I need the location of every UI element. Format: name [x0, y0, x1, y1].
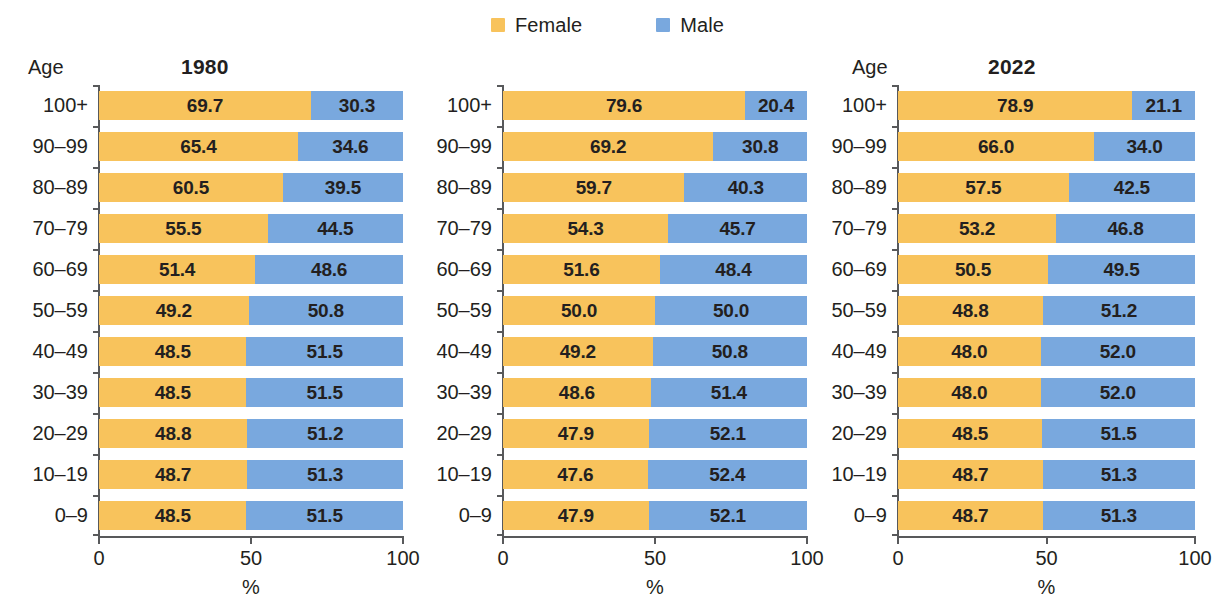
legend-entry-male[interactable]: Male [656, 15, 724, 35]
bar-segment-female[interactable]: 51.4 [99, 255, 255, 284]
legend-entry-female[interactable]: Female [491, 15, 582, 35]
bar-segment-male[interactable]: 30.3 [311, 91, 403, 120]
bar-segment-male[interactable]: 51.4 [651, 378, 807, 407]
bar-row[interactable]: 80–8957.542.5 [898, 167, 1195, 208]
bar-row[interactable]: 100+78.921.1 [898, 85, 1195, 126]
bar-segment-male[interactable]: 45.7 [668, 214, 807, 243]
bar-row[interactable]: 0–948.751.3 [898, 495, 1195, 536]
bar-row[interactable]: 40–4949.250.8 [503, 331, 807, 372]
bar-segment-female[interactable]: 48.7 [898, 460, 1043, 489]
bar-segment-male[interactable]: 50.8 [653, 337, 807, 366]
bar-segment-female[interactable]: 48.5 [99, 337, 246, 366]
bar-row[interactable]: 80–8959.740.3 [503, 167, 807, 208]
bar-row[interactable]: 10–1947.652.4 [503, 454, 807, 495]
bar-segment-female[interactable]: 59.7 [503, 173, 684, 202]
bar-segment-male[interactable]: 52.0 [1041, 337, 1195, 366]
bar-segment-male[interactable]: 52.1 [649, 419, 807, 448]
bar-segment-male[interactable]: 51.5 [246, 501, 403, 530]
bar-segment-female[interactable]: 69.7 [99, 91, 311, 120]
bar-segment-male[interactable]: 51.3 [1043, 501, 1195, 530]
bar-segment-female[interactable]: 78.9 [898, 91, 1132, 120]
bar-segment-male[interactable]: 44.5 [268, 214, 403, 243]
bar-row[interactable]: 70–7955.544.5 [99, 208, 403, 249]
bar-row[interactable]: 60–6950.549.5 [898, 249, 1195, 290]
bar-segment-male[interactable]: 50.8 [249, 296, 403, 325]
bar-row[interactable]: 40–4948.551.5 [99, 331, 403, 372]
bar-row[interactable]: 50–5948.851.2 [898, 290, 1195, 331]
bar-segment-male[interactable]: 49.5 [1048, 255, 1195, 284]
bar-segment-female[interactable]: 48.7 [898, 501, 1043, 530]
bar-segment-female[interactable]: 47.9 [503, 419, 649, 448]
bar-segment-female[interactable]: 53.2 [898, 214, 1056, 243]
bar-segment-male[interactable]: 20.4 [745, 91, 807, 120]
bar-segment-male[interactable]: 21.1 [1132, 91, 1195, 120]
bar-row[interactable]: 0–947.952.1 [503, 495, 807, 536]
bar-row[interactable]: 30–3948.651.4 [503, 372, 807, 413]
bar-row[interactable]: 10–1948.751.3 [898, 454, 1195, 495]
bar-segment-female[interactable]: 48.5 [99, 378, 246, 407]
bar-row[interactable]: 40–4948.052.0 [898, 331, 1195, 372]
bar-segment-female[interactable]: 47.9 [503, 501, 649, 530]
bar-segment-female[interactable]: 66.0 [898, 132, 1094, 161]
bar-segment-female[interactable]: 57.5 [898, 173, 1069, 202]
bar-segment-female[interactable]: 69.2 [503, 132, 713, 161]
bar-segment-male[interactable]: 51.2 [247, 419, 403, 448]
bar-segment-male[interactable]: 48.6 [255, 255, 403, 284]
bar-row[interactable]: 30–3948.551.5 [99, 372, 403, 413]
bar-segment-female[interactable]: 48.6 [503, 378, 651, 407]
bar-segment-male[interactable]: 48.4 [660, 255, 807, 284]
bar-segment-female[interactable]: 49.2 [99, 296, 249, 325]
bar-segment-male[interactable]: 42.5 [1069, 173, 1195, 202]
bar-segment-male[interactable]: 50.0 [655, 296, 807, 325]
bar-row[interactable]: 70–7954.345.7 [503, 208, 807, 249]
bar-segment-female[interactable]: 48.8 [99, 419, 247, 448]
bar-segment-female[interactable]: 65.4 [99, 132, 298, 161]
bar-segment-female[interactable]: 48.5 [898, 419, 1042, 448]
bar-row[interactable]: 20–2947.952.1 [503, 413, 807, 454]
bar-segment-male[interactable]: 51.5 [246, 337, 403, 366]
bar-row[interactable]: 70–7953.246.8 [898, 208, 1195, 249]
bar-segment-male[interactable]: 52.0 [1041, 378, 1195, 407]
bar-row[interactable]: 90–9969.230.8 [503, 126, 807, 167]
bar-segment-female[interactable]: 48.7 [99, 460, 247, 489]
bar-segment-male[interactable]: 52.1 [649, 501, 807, 530]
bar-row[interactable]: 0–948.551.5 [99, 495, 403, 536]
bar-segment-female[interactable]: 54.3 [503, 214, 668, 243]
bar-segment-female[interactable]: 47.6 [503, 460, 648, 489]
bar-segment-male[interactable]: 46.8 [1056, 214, 1195, 243]
bar-segment-female[interactable]: 50.0 [503, 296, 655, 325]
bar-row[interactable]: 50–5949.250.8 [99, 290, 403, 331]
bar-segment-male[interactable]: 39.5 [283, 173, 403, 202]
bar-row[interactable]: 20–2948.851.2 [99, 413, 403, 454]
bar-segment-male[interactable]: 51.3 [1043, 460, 1195, 489]
bar-row[interactable]: 90–9966.034.0 [898, 126, 1195, 167]
bar-row[interactable]: 50–5950.050.0 [503, 290, 807, 331]
bar-segment-male[interactable]: 34.6 [298, 132, 403, 161]
bar-segment-female[interactable]: 48.0 [898, 337, 1041, 366]
bar-segment-female[interactable]: 51.6 [503, 255, 660, 284]
bar-segment-male[interactable]: 51.5 [1042, 419, 1195, 448]
bar-segment-female[interactable]: 79.6 [503, 91, 745, 120]
bar-segment-female[interactable]: 50.5 [898, 255, 1048, 284]
bar-segment-male[interactable]: 51.5 [246, 378, 403, 407]
bar-segment-male[interactable]: 40.3 [684, 173, 807, 202]
bar-segment-female[interactable]: 48.8 [898, 296, 1043, 325]
bar-segment-female[interactable]: 55.5 [99, 214, 268, 243]
bar-segment-male[interactable]: 30.8 [713, 132, 807, 161]
bar-row[interactable]: 10–1948.751.3 [99, 454, 403, 495]
bar-row[interactable]: 30–3948.052.0 [898, 372, 1195, 413]
bar-row[interactable]: 100+69.730.3 [99, 85, 403, 126]
bar-row[interactable]: 90–9965.434.6 [99, 126, 403, 167]
bar-row[interactable]: 100+79.620.4 [503, 85, 807, 126]
bar-row[interactable]: 60–6951.448.6 [99, 249, 403, 290]
bar-row[interactable]: 20–2948.551.5 [898, 413, 1195, 454]
bar-segment-male[interactable]: 52.4 [648, 460, 807, 489]
bar-row[interactable]: 60–6951.648.4 [503, 249, 807, 290]
bar-segment-male[interactable]: 51.2 [1043, 296, 1195, 325]
bar-segment-male[interactable]: 51.3 [247, 460, 403, 489]
bar-segment-female[interactable]: 60.5 [99, 173, 283, 202]
bar-segment-female[interactable]: 48.5 [99, 501, 246, 530]
bar-segment-male[interactable]: 34.0 [1094, 132, 1195, 161]
bar-row[interactable]: 80–8960.539.5 [99, 167, 403, 208]
bar-segment-female[interactable]: 48.0 [898, 378, 1041, 407]
